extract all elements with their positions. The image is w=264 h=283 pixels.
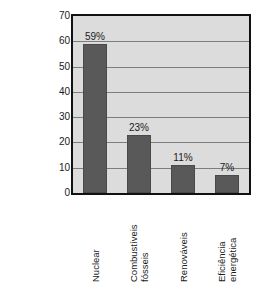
- x-category-label-rotated: Eficiênciaenergética: [216, 198, 238, 282]
- x-axis-category-labels: NuclearCombustíveisfósseisRenováveisEfic…: [71, 198, 251, 282]
- x-category-label-rotated: Combustíveisfósseis: [128, 198, 150, 282]
- bar-value-label: 23%: [119, 122, 160, 133]
- x-category-label-line: fósseis: [139, 252, 150, 282]
- plot-area: 59%23%11%7%: [71, 14, 251, 195]
- y-tick-label: 10: [48, 163, 70, 173]
- x-category-label: Eficiênciaenergética: [205, 198, 249, 282]
- x-category-label: Combustíveisfósseis: [117, 198, 161, 282]
- y-axis-tick-labels: 706050403020100: [48, 8, 70, 208]
- y-tick-label: 0: [48, 188, 70, 198]
- y-axis-title: Gastos dos Estados Unidos em P&D, 1949–1…: [6, 14, 52, 204]
- x-category-label-line: energética: [227, 238, 238, 282]
- bar: [83, 44, 108, 193]
- x-category-label: Renováveis: [161, 198, 205, 282]
- y-tick-label: 20: [48, 137, 70, 147]
- y-tick-label: 40: [48, 87, 70, 97]
- bar: [127, 135, 152, 193]
- x-category-label-rotated: Nuclear: [90, 198, 101, 282]
- x-category-label: Nuclear: [73, 198, 117, 282]
- bar-value-label: 59%: [75, 31, 116, 42]
- bar: [215, 175, 240, 193]
- x-category-label-line: Eficiência: [216, 241, 227, 282]
- plot-inner: 59%23%11%7%: [73, 16, 249, 193]
- y-tick-label: 50: [48, 62, 70, 72]
- y-tick-label: 70: [48, 11, 70, 21]
- x-category-label-line: Nuclear: [90, 249, 101, 282]
- bar-value-label: 11%: [163, 152, 204, 163]
- x-category-label-line: Renováveis: [178, 232, 189, 282]
- y-tick-label: 30: [48, 112, 70, 122]
- bar-chart-figure: Gastos dos Estados Unidos em P&D, 1949–1…: [0, 0, 264, 283]
- y-tick-label: 60: [48, 36, 70, 46]
- bar-value-label: 7%: [207, 162, 248, 173]
- x-category-label-rotated: Renováveis: [178, 198, 189, 282]
- bar: [171, 165, 196, 193]
- x-category-label-line: Combustíveis: [128, 224, 139, 282]
